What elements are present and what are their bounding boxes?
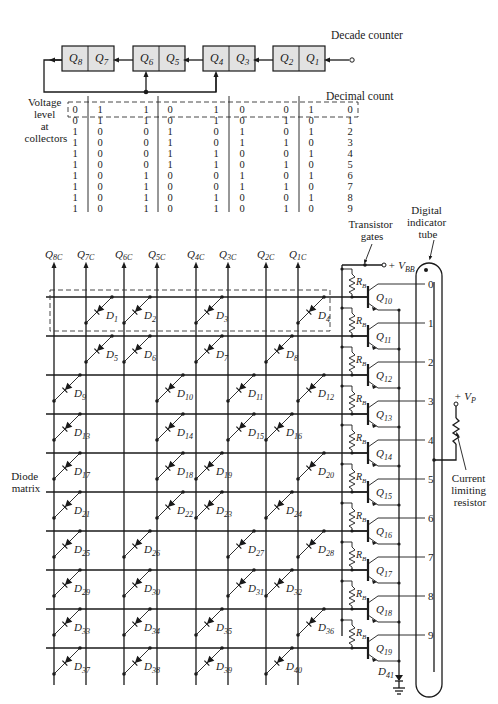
svg-text:0: 0 bbox=[239, 104, 244, 115]
column-label-Q3C: Q3C bbox=[219, 248, 237, 262]
flipflop-3: Q4Q3 bbox=[203, 46, 255, 71]
resistor-RB-icon bbox=[349, 547, 355, 570]
row-0-highlight-box bbox=[50, 290, 330, 331]
svg-text:1: 1 bbox=[72, 192, 77, 203]
diode-matrix-label-1: Diode bbox=[11, 470, 38, 482]
svg-text:1: 1 bbox=[97, 115, 102, 126]
resistor-RB-icon bbox=[349, 430, 355, 453]
svg-text:1: 1 bbox=[97, 104, 102, 115]
svg-text:1: 1 bbox=[143, 192, 148, 203]
ground-icon bbox=[393, 688, 405, 694]
svg-text:0: 0 bbox=[308, 159, 313, 170]
diode-D39: D39 bbox=[194, 646, 232, 676]
truth-table-row: 101010109 bbox=[72, 203, 352, 214]
diode-label-D5: D5 bbox=[105, 348, 118, 363]
svg-text:0: 0 bbox=[283, 104, 288, 115]
svg-text:0: 0 bbox=[97, 126, 102, 137]
diode-label-D27: D27 bbox=[247, 543, 265, 558]
diode-label-D21: D21 bbox=[73, 504, 90, 519]
column-label-Q7C: Q7C bbox=[77, 248, 95, 262]
svg-text:1: 1 bbox=[283, 137, 288, 148]
diode-label-D28: D28 bbox=[317, 543, 334, 558]
tube-digit-1: 1 bbox=[428, 317, 434, 329]
resistor-RB-icon bbox=[349, 508, 355, 531]
tube-digit-7: 7 bbox=[428, 551, 434, 563]
diode-D20: D20 bbox=[296, 451, 334, 481]
svg-text:1: 1 bbox=[143, 115, 148, 126]
transistor-Q12: RBQ12 bbox=[340, 345, 425, 389]
transistor-label-Q19: Q19 bbox=[376, 642, 392, 657]
transistor-label-Q15: Q15 bbox=[376, 486, 392, 501]
svg-text:0: 0 bbox=[308, 137, 313, 148]
diode-D37: D37 bbox=[52, 646, 91, 676]
diode-D32: D32 bbox=[264, 568, 302, 598]
diode-D18: D18 bbox=[155, 451, 193, 481]
svg-text:0: 0 bbox=[283, 126, 288, 137]
decimal-count: 9 bbox=[347, 203, 352, 214]
resistor-label: RB bbox=[355, 276, 367, 290]
tube-digit-0: 0 bbox=[428, 278, 434, 290]
resistor-label: RB bbox=[355, 471, 367, 485]
d41-diode-icon bbox=[395, 675, 403, 681]
svg-text:0: 0 bbox=[239, 115, 244, 126]
svg-text:1: 1 bbox=[308, 170, 313, 181]
tube-label-3: tube bbox=[419, 228, 438, 240]
truth-table: Voltage level at collectors Decimal coun… bbox=[25, 90, 395, 214]
diode-label-D24: D24 bbox=[285, 504, 302, 519]
diode-D11: D11 bbox=[226, 373, 263, 403]
tube-digit-2: 2 bbox=[428, 356, 434, 368]
diode-label-D18: D18 bbox=[176, 465, 193, 480]
svg-text:0: 0 bbox=[167, 192, 172, 203]
diode-D29: D29 bbox=[52, 568, 90, 598]
transistor-Q14: RBQ14 bbox=[340, 423, 425, 467]
transistor-label-Q14: Q14 bbox=[376, 447, 392, 462]
row-label-1: Voltage bbox=[28, 96, 62, 108]
svg-text:Voltage level at: Voltage level at collectors bbox=[25, 96, 68, 144]
tube-label-2: indicator bbox=[407, 216, 446, 228]
tube-digit-9: 9 bbox=[428, 629, 434, 641]
decimal-count: 2 bbox=[347, 126, 352, 137]
svg-text:1: 1 bbox=[213, 104, 218, 115]
svg-text:1: 1 bbox=[308, 104, 313, 115]
diode-label-D10: D10 bbox=[176, 387, 193, 402]
diode-label-D2: D2 bbox=[143, 309, 156, 324]
svg-text:0: 0 bbox=[72, 104, 77, 115]
transistor-Q19: RBQ19 bbox=[340, 618, 425, 662]
svg-text:1: 1 bbox=[239, 170, 244, 181]
diode-D30: D30 bbox=[122, 568, 160, 598]
svg-text:1: 1 bbox=[72, 181, 77, 192]
vp-sub: P bbox=[470, 396, 476, 405]
svg-text:0: 0 bbox=[143, 137, 148, 148]
diode-label-D3: D3 bbox=[215, 309, 228, 324]
truth-table-row: 100101012 bbox=[72, 126, 352, 137]
tube-digit-3: 3 bbox=[428, 395, 434, 407]
resistor-label-2: limiting bbox=[451, 484, 486, 496]
svg-text:1: 1 bbox=[72, 170, 77, 181]
transistor-gates: Transistor gates + VBB RBQ10RBQ11RBQ12RB… bbox=[340, 218, 425, 694]
column-label-Q2C: Q2C bbox=[257, 248, 275, 262]
diode-label-D35: D35 bbox=[215, 621, 232, 636]
transistor-label-Q12: Q12 bbox=[376, 369, 392, 384]
svg-text:1: 1 bbox=[72, 203, 77, 214]
diode-label-D36: D36 bbox=[317, 621, 334, 636]
svg-text:1: 1 bbox=[283, 115, 288, 126]
diode-D13: D13 bbox=[52, 412, 90, 442]
transistor-Q18: RBQ18 bbox=[340, 579, 425, 623]
svg-text:1: 1 bbox=[213, 148, 218, 159]
resistor-RB-icon bbox=[349, 274, 355, 297]
resistor-label: RB bbox=[355, 510, 367, 524]
svg-text:1: 1 bbox=[143, 203, 148, 214]
diode-label-D39: D39 bbox=[215, 660, 232, 675]
column-label-Q1C: Q1C bbox=[289, 248, 307, 262]
diode-D15: D15 bbox=[226, 412, 264, 442]
diode-label-D4: D4 bbox=[317, 309, 330, 324]
gates-label-2: gates bbox=[361, 230, 384, 242]
diode-label-D33: D33 bbox=[73, 621, 90, 636]
transistor-Q10: RBQ10 bbox=[340, 267, 425, 311]
tube-label-1: Digital bbox=[411, 204, 442, 216]
d41-sub: 41 bbox=[386, 671, 394, 680]
diode-D21: D21 bbox=[52, 490, 90, 520]
decade-counter: Decade counter Q8Q7Q6Q5Q4Q3Q2Q1 bbox=[44, 29, 403, 94]
vbb-label: + V bbox=[388, 259, 406, 271]
diode-label-D14: D14 bbox=[176, 426, 193, 441]
